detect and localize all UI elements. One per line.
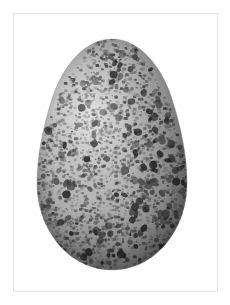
- egg-svg: [34, 38, 190, 272]
- illustration-plate: [0, 0, 230, 305]
- egg-image: [34, 38, 190, 272]
